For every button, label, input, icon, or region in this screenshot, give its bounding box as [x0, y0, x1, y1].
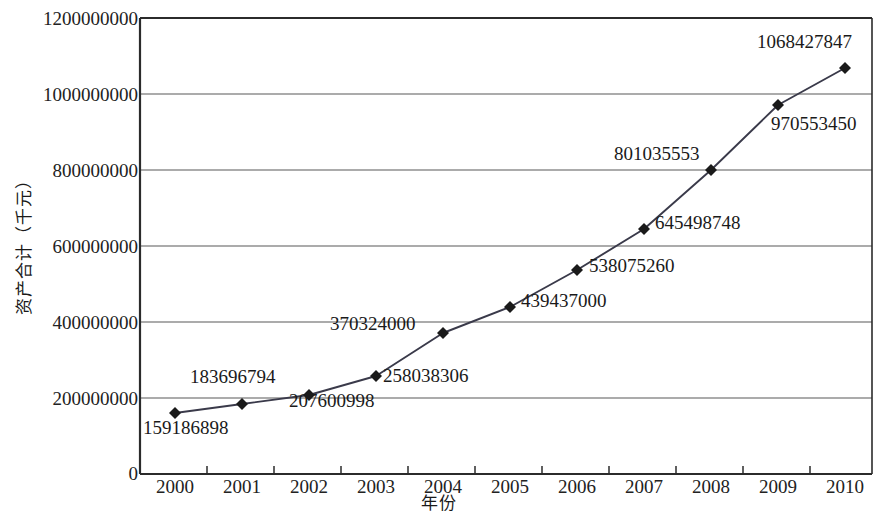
line-chart: 资产合计（千元） 1200000000 1000000000 800000000…: [0, 0, 877, 515]
data-label-2008: 801035553: [614, 143, 700, 165]
x-axis-ticks: [207, 466, 810, 474]
gridlines: [140, 94, 872, 398]
data-label-2009: 970553450: [771, 113, 857, 135]
data-label-2010: 1068427847: [757, 31, 852, 53]
data-label-2004: 370324000: [330, 313, 416, 335]
plot-area: [0, 0, 877, 515]
data-label-2001: 183696794: [190, 366, 276, 388]
data-label-2000: 159186898: [143, 417, 229, 439]
data-label-2006: 538075260: [589, 255, 675, 277]
data-label-2003: 258038306: [383, 365, 469, 387]
data-label-2002: 207600998: [289, 390, 375, 412]
data-label-2005: 439437000: [521, 290, 607, 312]
series-line: [175, 68, 845, 413]
data-label-2007: 645498748: [655, 212, 741, 234]
